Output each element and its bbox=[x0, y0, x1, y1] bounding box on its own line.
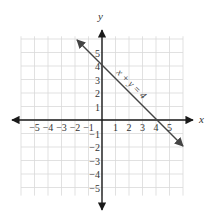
x-tick-label: 2 bbox=[127, 122, 132, 133]
x-axis-label: x bbox=[198, 113, 204, 125]
x-tick-label: 4 bbox=[154, 122, 159, 133]
equation-label: x + y = 4 bbox=[114, 66, 149, 101]
y-tick-label: −1 bbox=[89, 129, 100, 140]
x-tick-label: −4 bbox=[43, 122, 54, 133]
x-tick-labels: −5−4−3−2−112345 bbox=[29, 122, 172, 133]
x-tick-label: −2 bbox=[70, 122, 81, 133]
y-tick-label: −2 bbox=[89, 142, 100, 153]
x-tick-label: 5 bbox=[167, 122, 172, 133]
y-tick-label: 4 bbox=[95, 61, 100, 72]
x-tick-label: −5 bbox=[29, 122, 40, 133]
coordinate-plane: x y x + y = 4 −5−4−3−2−112345 54321−1−2−… bbox=[0, 0, 214, 218]
y-axis-label: y bbox=[97, 10, 103, 22]
x-tick-label: 1 bbox=[113, 122, 118, 133]
y-tick-label: 1 bbox=[95, 102, 100, 113]
y-tick-label: 5 bbox=[95, 48, 100, 59]
y-tick-label: −3 bbox=[89, 156, 100, 167]
y-tick-label: −4 bbox=[89, 169, 100, 180]
y-tick-label: 2 bbox=[95, 88, 100, 99]
x-tick-label: 3 bbox=[140, 122, 145, 133]
y-tick-label: 3 bbox=[95, 75, 100, 86]
y-tick-label: −5 bbox=[89, 183, 100, 194]
x-tick-label: −3 bbox=[56, 122, 67, 133]
